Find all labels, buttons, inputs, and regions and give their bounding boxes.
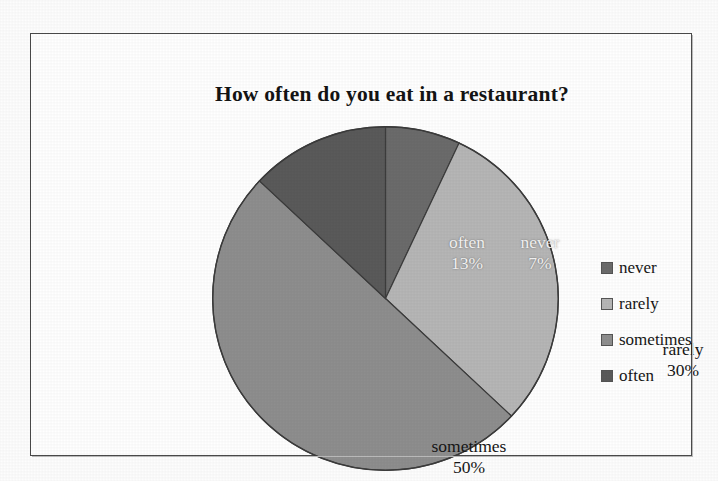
chart-title: How often do you eat in a restaurant? — [61, 82, 718, 107]
chart-legend: neverrarelysometimesoften — [601, 250, 713, 394]
chart-frame-border: How often do you eat in a restaurant? ne… — [30, 33, 692, 456]
legend-swatch-never — [601, 262, 613, 274]
pie-slice-group — [213, 127, 559, 471]
legend-label-never: never — [619, 258, 657, 278]
legend-swatch-sometimes — [601, 334, 613, 346]
legend-label-sometimes: sometimes — [619, 330, 692, 350]
legend-item-often[interactable]: often — [601, 358, 713, 394]
pie-chart: never 7% rarely 30% sometimes 50% often … — [212, 126, 559, 471]
legend-item-sometimes[interactable]: sometimes — [601, 322, 713, 358]
legend-label-often: often — [619, 366, 654, 386]
legend-swatch-rarely — [601, 298, 613, 310]
pie-svg — [212, 126, 559, 471]
legend-swatch-often — [601, 370, 613, 382]
legend-label-rarely: rarely — [619, 294, 659, 314]
legend-item-never[interactable]: never — [601, 250, 713, 286]
legend-item-rarely[interactable]: rarely — [601, 286, 713, 322]
chart-page: How often do you eat in a restaurant? ne… — [0, 0, 718, 481]
